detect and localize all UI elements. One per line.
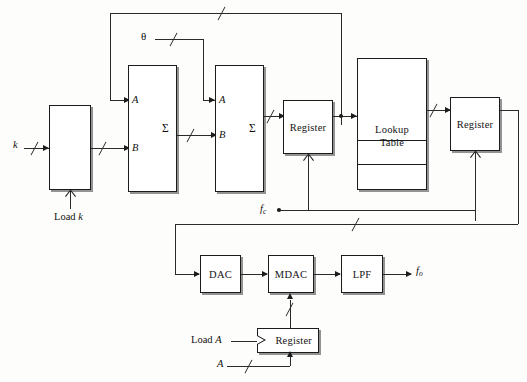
wire-fc-to-amp-register bbox=[475, 151, 476, 221]
adder1-input-a-label: A bbox=[132, 94, 138, 105]
arrowhead-a-register-bottom-in bbox=[287, 351, 293, 357]
clock-triangle-a-register bbox=[257, 335, 266, 346]
bus-slash-kreg-out bbox=[97, 142, 108, 155]
lookup-table-divider-2 bbox=[357, 164, 427, 165]
lpf-block[interactable]: LPF bbox=[341, 255, 383, 293]
arrowhead-fo-out bbox=[406, 271, 412, 277]
amplitude-register-block[interactable]: Register bbox=[450, 97, 500, 151]
wire-lower-bus-down-to-dac bbox=[175, 224, 176, 274]
wire-a-input bbox=[227, 366, 290, 367]
fo-subscript: o bbox=[419, 269, 423, 278]
load-k-label: Load k bbox=[54, 211, 83, 222]
load-a-var: A bbox=[215, 334, 221, 345]
fc-label: fc bbox=[260, 203, 266, 216]
load-k-var: k bbox=[78, 211, 83, 222]
lookup-table-divider-1 bbox=[357, 140, 427, 141]
wire-fc-bus bbox=[277, 210, 475, 211]
wire-load-k bbox=[70, 190, 71, 209]
junction-dot-fc bbox=[277, 208, 281, 212]
junction-dot-phase-feedback bbox=[339, 114, 343, 118]
bus-slash-areg-out bbox=[284, 303, 295, 316]
theta-label: θ bbox=[141, 30, 146, 42]
adder2-input-b-label: B bbox=[219, 129, 225, 140]
bus-slash-lut-out bbox=[428, 104, 439, 117]
adder1-sigma-label: Σ bbox=[162, 122, 169, 134]
bus-slash-k-input bbox=[29, 142, 40, 155]
bus-slash-a-input bbox=[243, 360, 254, 373]
bus-slash-theta bbox=[168, 33, 179, 46]
adder1-input-b-label: B bbox=[132, 142, 138, 153]
dac-block[interactable]: DAC bbox=[200, 255, 241, 293]
lookup-table-line2: Table bbox=[358, 136, 426, 149]
wire-adder1-to-adder2-b bbox=[177, 135, 215, 136]
adder2-input-a-label: A bbox=[219, 94, 225, 105]
wire-top-feedback-up-right bbox=[341, 13, 342, 125]
dds-block-diagram: θ k Load k A B Σ A B Σ Register Lookup T… bbox=[0, 0, 527, 382]
wire-top-feedback-down-left bbox=[110, 13, 111, 100]
a-register-block[interactable]: Register bbox=[257, 328, 319, 353]
lookup-table-block[interactable]: Lookup Table bbox=[357, 58, 427, 190]
bus-slash-adder2-out bbox=[265, 110, 276, 123]
fc-subscript: c bbox=[263, 207, 266, 216]
k-register-block[interactable] bbox=[49, 105, 91, 190]
arrowhead-mdac-bottom-in bbox=[287, 293, 293, 299]
load-a-word: Load bbox=[191, 334, 213, 345]
mdac-block[interactable]: MDAC bbox=[268, 255, 314, 293]
fo-label: fo bbox=[416, 265, 423, 278]
wire-amp-register-out bbox=[500, 110, 518, 111]
wire-theta bbox=[155, 39, 203, 40]
load-a-label: Load A bbox=[191, 334, 222, 345]
a-register-label: Register bbox=[275, 335, 312, 346]
k-input-label: k bbox=[13, 139, 18, 150]
adder1-block[interactable] bbox=[128, 65, 177, 192]
lookup-table-line1: Lookup bbox=[358, 123, 426, 136]
wire-fc-to-phase-register bbox=[308, 154, 309, 210]
a-input-label: A bbox=[217, 358, 223, 369]
wire-load-a bbox=[231, 341, 257, 342]
load-k-word: Load bbox=[54, 211, 76, 222]
wire-lower-data-bus bbox=[175, 224, 518, 225]
wire-amp-register-out-down bbox=[518, 110, 519, 224]
bus-slash-lower-data-bus bbox=[350, 218, 361, 231]
wire-theta-down bbox=[203, 39, 204, 100]
bus-slash-top-feedback bbox=[216, 7, 227, 20]
bus-slash-adder1-out bbox=[185, 129, 196, 142]
phase-register-block[interactable]: Register bbox=[283, 100, 333, 154]
adder2-sigma-label: Σ bbox=[249, 122, 256, 134]
